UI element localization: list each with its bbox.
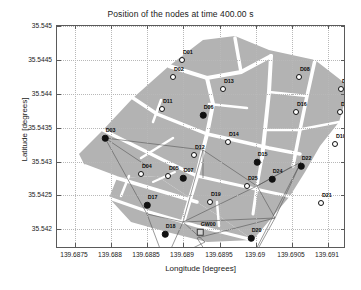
node-label: D05 [169,165,179,171]
marker-glyph [298,163,305,170]
node-label: D04 [142,163,152,169]
xtick [220,243,221,247]
node-marker-d13[interactable]: D13 [220,86,226,92]
marker-glyph [165,173,171,179]
node-marker-d01[interactable]: D01 [179,57,185,63]
node-marker-d15[interactable]: D15 [254,159,261,166]
node-marker-d04[interactable]: D04 [138,171,144,177]
node-label: D22 [302,154,312,160]
plot-area[interactable]: D01 D02 D04 D05 D08 D09 [56,25,345,248]
node-label: D07 [184,166,194,172]
ytick [57,162,61,163]
node-label: D18 [166,222,176,228]
node-label: D19 [211,191,221,197]
node-label: D24 [273,167,283,173]
node-marker-d12[interactable]: D12 [191,152,197,158]
xtick [111,243,112,247]
node-marker-d23[interactable]: D23 [337,109,343,115]
ytick-right [341,60,344,61]
node-marker-d19[interactable]: D19 [207,199,213,205]
node-marker-d25[interactable]: D25 [244,183,250,189]
node-label: D03 [106,126,116,132]
node-marker-d11[interactable]: D11 [159,106,165,112]
ytick [57,60,61,61]
ytick-right [341,229,344,230]
marker-glyph [248,235,255,242]
marker-glyph [332,141,338,147]
marker-glyph [338,86,344,92]
marker-glyph [180,175,187,182]
marker-glyph [207,199,213,205]
node-marker-d08[interactable]: D08 [296,74,302,80]
ytick [57,26,61,27]
node-marker-d20[interactable]: D20 [248,235,255,242]
node-label: D14 [229,131,239,137]
xtick-label: 139.691 [315,251,339,258]
node-marker-d24[interactable]: D24 [269,176,276,183]
xtick-top [256,26,257,29]
gridline-y [57,128,344,129]
marker-glyph [170,74,176,80]
marker-glyph [254,159,261,166]
marker-glyph [102,135,109,142]
node-marker-d16[interactable]: D16 [293,109,299,115]
node-label: D17 [148,193,158,199]
node-marker-gw00[interactable]: GW00 [197,229,204,236]
ytick [57,94,61,95]
marker-glyph [293,109,299,115]
node-marker-d17[interactable]: D17 [144,202,151,209]
node-marker-d14[interactable]: D14 [225,139,231,145]
xtick [256,243,257,247]
marker-glyph [191,152,197,158]
gridline-y [57,94,344,95]
xtick-top [111,26,112,29]
xtick-top [75,26,76,29]
xtick-top [183,26,184,29]
node-label: D13 [224,78,234,84]
marker-glyph [200,112,207,119]
ytick-label: 35.542 [14,225,52,232]
marker-glyph [138,171,144,177]
ytick-right [341,162,344,163]
chart-title: Position of the nodes at time 400.00 s [0,9,361,19]
node-marker-d05[interactable]: D05 [165,173,171,179]
marker-glyph [144,202,151,209]
node-label: D16 [297,101,307,107]
marker-glyph [296,74,302,80]
node-label: D25 [248,175,258,181]
xtick-top [147,26,148,29]
ytick-right [341,94,344,95]
xtick-top [292,26,293,29]
node-marker-d03[interactable]: D03 [102,135,109,142]
x-axis-title: Longitude [degrees] [56,264,345,273]
xtick [75,243,76,247]
node-label: D08 [300,66,310,72]
figure-canvas: Position of the nodes at time 400.00 s [0,0,361,290]
xtick-top [328,26,329,29]
xtick-label: 139.69 [245,251,265,258]
node-marker-d02[interactable]: D02 [170,74,176,80]
node-marker-d10[interactable]: D10 [332,141,338,147]
xtick [147,243,148,247]
node-marker-d21[interactable]: D21 [318,200,324,206]
ytick-right [341,26,344,27]
marker-glyph [197,229,204,236]
marker-glyph [162,231,169,238]
xtick-label: 139.6875 [60,251,88,258]
xtick-label: 139.6905 [277,251,305,258]
node-marker-d06[interactable]: D06 [200,112,207,119]
marker-glyph [220,86,226,92]
marker-glyph [179,57,185,63]
node-marker-d07[interactable]: D07 [180,175,187,182]
marker-glyph [159,106,165,112]
node-marker-d22[interactable]: D22 [298,163,305,170]
marker-glyph [225,139,231,145]
ytick [57,128,61,129]
node-marker-d09[interactable]: D09 [338,86,344,92]
plot-clip: D01 D02 D04 D05 D08 D09 [57,26,344,247]
ytick-right [341,128,344,129]
xtick [183,243,184,247]
node-label: D15 [258,150,268,156]
node-marker-d18[interactable]: D18 [162,231,169,238]
node-label: D09 [342,78,344,84]
